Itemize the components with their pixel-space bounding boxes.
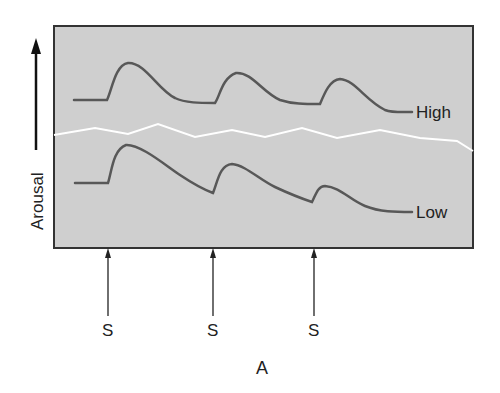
low-curve-label: Low (416, 203, 448, 222)
stimulus-arrow-1 (105, 248, 111, 316)
stimulus-label-3: S (308, 321, 319, 340)
stimulus-arrow-3 (311, 248, 317, 316)
arousal-axis-arrow (31, 38, 41, 150)
stimulus-label-1: S (102, 321, 113, 340)
high-curve-label: High (416, 103, 451, 122)
panel-label: A (256, 358, 268, 378)
stimulus-label-2: S (207, 321, 218, 340)
arousal-axis-label: Arousal (28, 172, 47, 230)
arousal-diagram: High Low Arousal S S S A (0, 0, 500, 393)
stimulus-arrow-2 (210, 248, 216, 316)
